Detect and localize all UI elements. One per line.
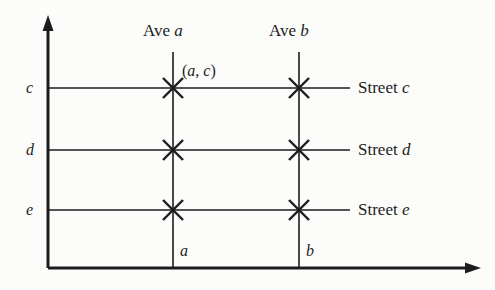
street-label-e-prefix: Street bbox=[358, 200, 398, 219]
diagram-canvas: Ave a Ave b Street c Street d Street e c… bbox=[0, 0, 495, 290]
avenue-label-b-name: b bbox=[300, 21, 309, 40]
avenue-label-a-prefix: Ave bbox=[143, 21, 170, 40]
diagram-svg bbox=[0, 0, 495, 290]
avenue-label-a: Ave a bbox=[143, 22, 183, 39]
y-axis-tick-label-d: d bbox=[26, 142, 34, 158]
street-label-c-name: c bbox=[402, 78, 410, 97]
y-axis-tick-label-e: e bbox=[26, 202, 33, 218]
avenue-label-a-name: a bbox=[174, 21, 183, 40]
x-axis-tick-label-b: b bbox=[306, 243, 314, 259]
x-axis-tick-label-a: a bbox=[180, 243, 188, 259]
street-label-c: Street c bbox=[358, 79, 409, 96]
street-label-e: Street e bbox=[358, 201, 409, 218]
avenue-label-b: Ave b bbox=[269, 22, 309, 39]
y-axis-tick-label-c: c bbox=[26, 80, 33, 96]
point-annotation-close: ) bbox=[210, 62, 215, 79]
street-label-d: Street d bbox=[358, 141, 410, 158]
avenue-label-b-prefix: Ave bbox=[269, 21, 296, 40]
vertical-axis bbox=[43, 15, 54, 268]
horizontal-axis bbox=[48, 263, 481, 274]
street-label-d-name: d bbox=[402, 140, 411, 159]
street-label-c-prefix: Street bbox=[358, 78, 398, 97]
street-label-e-name: e bbox=[402, 200, 410, 219]
street-label-d-prefix: Street bbox=[358, 140, 398, 159]
point-annotation-a-c: (a, c) bbox=[182, 63, 216, 79]
